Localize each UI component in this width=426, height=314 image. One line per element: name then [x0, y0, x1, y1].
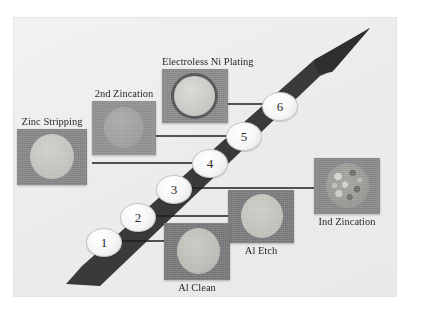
- micrograph-step-2: [228, 190, 294, 243]
- step-badge-4-label: 4: [207, 156, 214, 172]
- thumbnail-al-clean[interactable]: Al Clean: [164, 223, 230, 293]
- step-badge-6[interactable]: 6: [262, 92, 298, 121]
- caption-step-6: Electroless Ni Plating: [162, 56, 254, 67]
- thumbnail-al-etch[interactable]: Al Etch: [228, 190, 294, 256]
- disc-face-5: [104, 107, 144, 148]
- arrow-tip: [314, 28, 370, 74]
- micrograph-step-5: [92, 101, 156, 155]
- disc-face-4: [30, 134, 74, 179]
- disc-face-2: [241, 194, 283, 238]
- thumbnail-electroless-ni-plating[interactable]: Electroless Ni Plating: [162, 56, 254, 123]
- diagram-stage: 1 2 3 4 5 6 Electroless Ni Plating 2nd Z…: [14, 18, 396, 296]
- micrograph-step-4: [17, 129, 87, 185]
- step-badge-3-label: 3: [171, 182, 178, 198]
- thumbnail-ind-zincation[interactable]: Ind Zincation: [314, 158, 380, 227]
- caption-step-3: Ind Zincation: [314, 216, 380, 227]
- caption-step-4: Zinc Stripping: [17, 116, 87, 127]
- thumbnail-2nd-zincation[interactable]: 2nd Zincation: [92, 88, 156, 155]
- step-badge-3[interactable]: 3: [156, 175, 192, 204]
- step-badge-6-label: 6: [277, 99, 284, 115]
- figure-panel: 1 2 3 4 5 6 Electroless Ni Plating 2nd Z…: [14, 18, 396, 296]
- caption-step-5: 2nd Zincation: [92, 88, 156, 99]
- step-badge-5[interactable]: 5: [226, 122, 262, 151]
- step-badge-4[interactable]: 4: [192, 149, 228, 178]
- disc-face-6: [174, 76, 215, 116]
- micrograph-step-1: [164, 223, 230, 280]
- micrograph-step-3: [314, 158, 380, 214]
- caption-step-1: Al Clean: [164, 282, 230, 293]
- step-badge-5-label: 5: [241, 129, 248, 145]
- step-badge-1[interactable]: 1: [86, 228, 122, 257]
- micrograph-step-6: [162, 69, 228, 123]
- caption-step-2: Al Etch: [228, 245, 294, 256]
- disc-texture-3: [326, 163, 369, 208]
- thumbnail-zinc-stripping[interactable]: Zinc Stripping: [17, 116, 87, 185]
- step-badge-1-label: 1: [101, 235, 108, 251]
- step-badge-2[interactable]: 2: [120, 203, 156, 232]
- step-badge-2-label: 2: [135, 210, 142, 226]
- disc-face-1: [177, 228, 220, 274]
